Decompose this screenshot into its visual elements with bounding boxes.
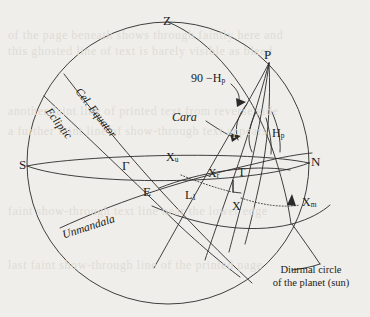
xu-sub-text: u	[175, 155, 179, 164]
label-x: X	[232, 200, 241, 212]
label-xu: Xu	[166, 151, 178, 164]
ghost-text-line: a further faint line of show-through tex…	[8, 124, 268, 139]
caption-line-1: Diurmal circle	[255, 264, 367, 277]
l1-sub-text: 1	[192, 193, 196, 202]
label-t: T	[238, 166, 245, 178]
ghost-text-line: of the page beneath shows through faintl…	[8, 28, 283, 43]
diurnal-circle-tail	[292, 224, 320, 264]
label-vernal-equinox: Γ	[122, 159, 130, 172]
xr-base-text: X	[208, 166, 217, 180]
label-hp: Hp	[272, 127, 284, 140]
ghost-text-line: faint show-through text line near the lo…	[8, 204, 268, 219]
ghost-text-line: last faint show-through line of the prin…	[8, 258, 262, 273]
label-l1: L1	[185, 189, 196, 202]
label-north: N	[311, 155, 320, 168]
celestial-sphere-figure: of the page beneath shows through faintl…	[0, 0, 370, 317]
ghost-text-line: this ghosted line of text is barely visi…	[8, 44, 273, 59]
label-ninety-minus-hp: 90 −Hp	[191, 72, 225, 85]
leader-90-minus-hp	[231, 84, 239, 101]
figure-caption: Diurmal circle of the planet (sun)	[255, 264, 367, 290]
xm-sub-text: m	[311, 200, 317, 209]
xu-base-text: X	[166, 150, 175, 164]
caption-line-2: of the planet (sun)	[255, 277, 367, 290]
hp-base-text: H	[272, 126, 281, 140]
label-pole: P	[264, 48, 271, 61]
label-xm: Xm	[302, 196, 316, 209]
right-angle-mark-t	[233, 180, 241, 193]
label-zenith: Z	[163, 14, 171, 27]
ninety-minus-text: 90 −	[191, 71, 213, 85]
hp-sub-text: p	[221, 76, 225, 85]
label-cara: Cara	[172, 111, 197, 123]
arrowhead-xm	[287, 194, 296, 206]
xm-base-text: X	[302, 195, 311, 209]
xr-sub-text: r	[217, 171, 219, 180]
label-east: E	[143, 185, 151, 198]
horizon-circle-front	[27, 163, 309, 181]
label-xr: Xr	[208, 167, 219, 180]
hp-sub-text: p	[281, 131, 285, 140]
label-south: S	[19, 158, 26, 171]
hour-circle-p-l1	[205, 63, 269, 260]
